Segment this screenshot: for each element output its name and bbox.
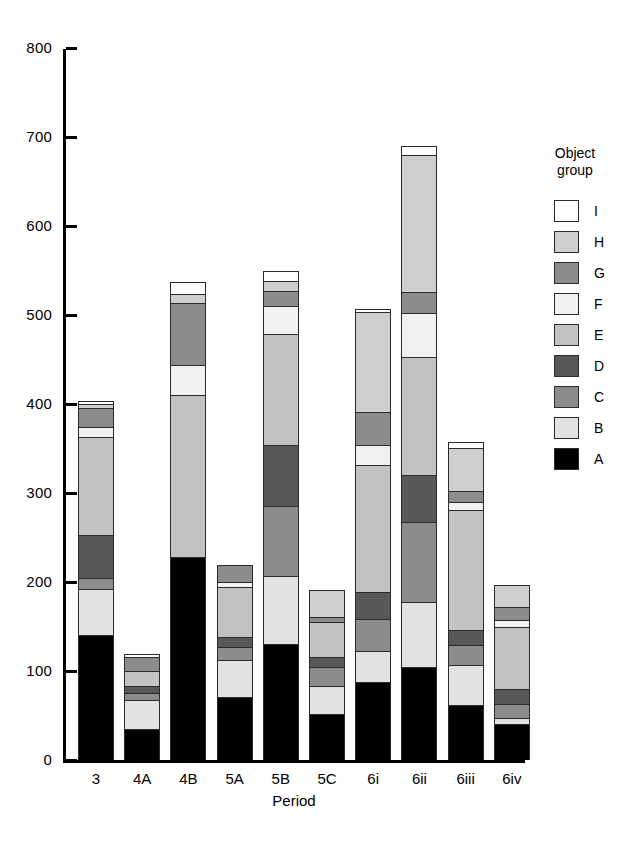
bar-segment[interactable] [448, 510, 484, 630]
bar-segment[interactable] [170, 557, 206, 760]
bar-segment[interactable] [217, 637, 253, 647]
legend-item[interactable]: I [535, 195, 635, 226]
bar-segment[interactable] [401, 357, 437, 475]
legend-item[interactable]: B [535, 412, 635, 443]
bar-segment[interactable] [78, 535, 114, 578]
bar-segment[interactable] [263, 334, 299, 445]
bar-segment[interactable] [309, 657, 345, 667]
bar-stack[interactable] [263, 271, 299, 760]
bar-segment[interactable] [263, 291, 299, 306]
bar-segment[interactable] [309, 686, 345, 714]
bar-segment[interactable] [448, 491, 484, 502]
bar-segment[interactable] [124, 657, 160, 671]
bar-segment[interactable] [263, 506, 299, 575]
bar-segment[interactable] [263, 445, 299, 506]
bar-segment[interactable] [78, 589, 114, 635]
bar-segment[interactable] [401, 602, 437, 667]
bar-segment[interactable] [355, 619, 391, 651]
legend-title-line2: group [537, 162, 613, 179]
bar-segment[interactable] [78, 408, 114, 428]
legend-swatch [554, 324, 579, 346]
bar-segment[interactable] [355, 312, 391, 412]
bar-segment[interactable] [170, 294, 206, 304]
legend-item[interactable]: G [535, 257, 635, 288]
bar-stack[interactable] [355, 309, 391, 760]
bar-segment[interactable] [170, 282, 206, 294]
bar-segment[interactable] [263, 281, 299, 291]
bar-stack[interactable] [217, 565, 253, 760]
bar-segment[interactable] [124, 686, 160, 693]
bar-segment[interactable] [494, 585, 530, 607]
bar-stack[interactable] [448, 442, 484, 760]
y-axis-tick-label: 200 [0, 574, 52, 589]
bar-segment[interactable] [448, 448, 484, 492]
bar-segment[interactable] [448, 630, 484, 645]
plot-area: 34A4B5A5B5C6i6ii6iii6iv [63, 49, 525, 763]
bar-segment[interactable] [124, 700, 160, 729]
bar-segment[interactable] [170, 303, 206, 364]
y-axis-tick [66, 403, 77, 406]
bar-segment[interactable] [401, 475, 437, 522]
bar-segment[interactable] [217, 697, 253, 760]
legend-item[interactable]: H [535, 226, 635, 257]
bar-segment[interactable] [494, 627, 530, 688]
bar-stack[interactable] [170, 282, 206, 760]
bar-segment[interactable] [309, 622, 345, 657]
bar-segment[interactable] [78, 427, 114, 437]
bar-segment[interactable] [448, 705, 484, 760]
bar-segment[interactable] [217, 647, 253, 660]
bar-segment[interactable] [217, 565, 253, 582]
bar-segment[interactable] [263, 576, 299, 645]
bar-stack[interactable] [401, 146, 437, 760]
bar-segment[interactable] [124, 729, 160, 760]
bar-segment[interactable] [170, 395, 206, 557]
legend-item[interactable]: F [535, 288, 635, 319]
bar-segment[interactable] [78, 437, 114, 535]
bar-segment[interactable] [401, 313, 437, 357]
bar-segment[interactable] [309, 714, 345, 760]
bar-segment[interactable] [217, 660, 253, 696]
bar-segment[interactable] [401, 522, 437, 602]
bar-segment[interactable] [263, 644, 299, 760]
bar-segment[interactable] [124, 671, 160, 686]
bar-stack[interactable] [78, 401, 114, 760]
bar-segment[interactable] [494, 607, 530, 620]
bar-segment[interactable] [401, 292, 437, 313]
y-axis-tick [66, 581, 77, 584]
legend-item[interactable]: D [535, 350, 635, 381]
bar-segment[interactable] [170, 365, 206, 395]
bar-segment[interactable] [448, 665, 484, 705]
bar-segment[interactable] [217, 587, 253, 637]
bar-segment[interactable] [448, 502, 484, 510]
legend-item[interactable]: C [535, 381, 635, 412]
bar-segment[interactable] [494, 704, 530, 718]
bar-segment[interactable] [355, 465, 391, 592]
bar-segment[interactable] [401, 667, 437, 760]
legend-item[interactable]: A [535, 443, 635, 474]
bar-stack[interactable] [494, 585, 530, 760]
bar-segment[interactable] [494, 620, 530, 627]
bar-stack[interactable] [309, 590, 345, 760]
x-axis-tick-label: 6iv [477, 771, 547, 787]
bar-segment[interactable] [355, 651, 391, 681]
bar-stack[interactable] [124, 654, 160, 760]
bar-segment[interactable] [355, 682, 391, 760]
bar-segment[interactable] [448, 645, 484, 665]
bar-segment[interactable] [355, 445, 391, 465]
bar-segment[interactable] [309, 590, 345, 617]
bar-segment[interactable] [401, 146, 437, 155]
bar-segment[interactable] [355, 592, 391, 620]
bar-segment[interactable] [263, 306, 299, 334]
bar-segment[interactable] [355, 412, 391, 445]
legend-item[interactable]: E [535, 319, 635, 350]
legend-item-label: H [594, 235, 604, 249]
y-axis-tick [66, 492, 77, 495]
bar-segment[interactable] [494, 724, 530, 760]
bar-segment[interactable] [401, 155, 437, 292]
bar-segment[interactable] [263, 271, 299, 281]
bar-segment[interactable] [309, 667, 345, 687]
bar-segment[interactable] [78, 578, 114, 590]
bar-segment[interactable] [494, 689, 530, 704]
bar-segment[interactable] [78, 635, 114, 760]
legend-item-label: I [594, 204, 598, 218]
